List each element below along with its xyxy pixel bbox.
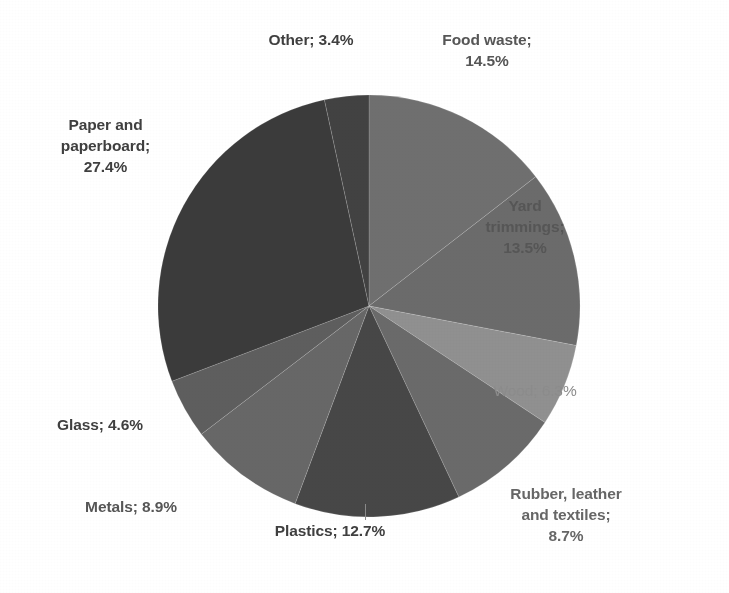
slice-label-paper-and-paperboard: Paper and paperboard; 27.4% <box>18 115 193 178</box>
pie-slice-group <box>158 95 580 517</box>
slice-label-glass: Glass; 4.6% <box>0 415 200 436</box>
pie-chart: Other; 3.4% Food waste; 14.5% Yard trimm… <box>0 0 729 593</box>
slice-label-other: Other; 3.4% <box>236 30 386 51</box>
slice-label-rubber-leather-textiles: Rubber, leather and textiles; 8.7% <box>466 484 666 547</box>
leader-line-plastics <box>365 504 366 520</box>
slice-label-metals: Metals; 8.9% <box>36 497 226 518</box>
slice-label-wood: Wood; 6.3% <box>450 381 620 402</box>
slice-label-yard-trimmings: Yard trimmings; 13.5% <box>450 196 600 259</box>
slice-label-food-waste: Food waste; 14.5% <box>412 30 562 72</box>
slice-label-plastics: Plastics; 12.7% <box>230 521 430 542</box>
